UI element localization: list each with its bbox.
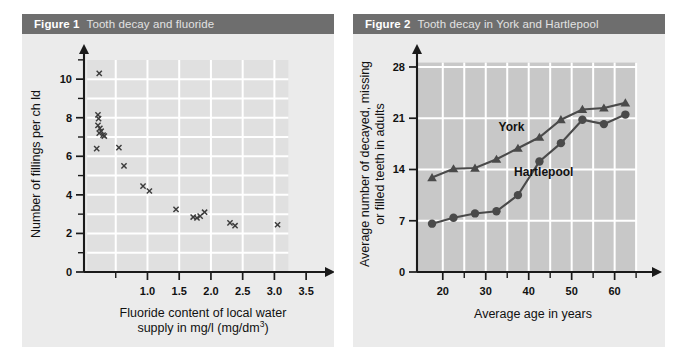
x-tick-label: 20	[437, 285, 449, 297]
y-axis-title: Number of fillings per ch ld	[29, 90, 43, 238]
data-point-marker	[578, 116, 586, 124]
y-axis-title-line1: Average number of decayed, missing	[358, 61, 372, 267]
y-tick-label: 6	[66, 150, 72, 162]
figure-2-panel: Figure 2 Tooth decay in York and Hartlep…	[353, 14, 665, 347]
data-point-marker	[449, 214, 457, 222]
data-point-marker	[492, 207, 500, 215]
page-background: Figure 1 Tooth decay and fluoride 024681…	[0, 0, 687, 361]
y-tick-label: 14	[393, 163, 406, 175]
figure-1-title: Tooth decay and fluoride	[87, 18, 215, 30]
data-point-marker	[557, 139, 565, 147]
x-tick-label: 3.5	[298, 285, 313, 297]
x-axis-arrow	[652, 267, 662, 277]
y-tick-label: 28	[393, 61, 405, 73]
x-tick-label: 2.5	[235, 285, 250, 297]
figure-2-plot: 071421282030405060Average number of deca…	[353, 34, 665, 347]
y-tick-label: 4	[66, 189, 73, 201]
x-tick-label: 3.0	[267, 285, 282, 297]
figure-2-number: Figure 2	[365, 18, 411, 30]
y-axis-title-line2: or filled teeth in adults	[373, 103, 387, 225]
x-axis-title: Average age in years	[474, 307, 592, 321]
series-label-hartlepool: Hartlepool	[514, 165, 573, 179]
figure-1-number: Figure 1	[34, 18, 80, 30]
x-tick-label: 50	[566, 285, 578, 297]
y-tick-label: 0	[66, 266, 72, 278]
figure-1-header: Figure 1 Tooth decay and fluoride	[22, 14, 334, 34]
data-point-marker	[428, 219, 436, 227]
y-tick-label: 7	[399, 215, 405, 227]
y-axis-arrow	[79, 44, 89, 54]
x-tick-label: 1.0	[140, 285, 155, 297]
figure-2-title: Tooth decay in York and Hartlepool	[418, 18, 599, 30]
y-tick-label: 10	[60, 73, 72, 85]
plot-background	[87, 60, 288, 272]
y-tick-label: 2	[66, 227, 72, 239]
data-point-marker	[471, 209, 479, 217]
figure-1-plot: 02468101.01.52.02.53.03.5Number of filli…	[22, 34, 334, 347]
figure-2-header: Figure 2 Tooth decay in York and Hartlep…	[353, 14, 665, 34]
line-chart-york-hartlepool: 071421282030405060Average number of deca…	[353, 34, 665, 347]
scatter-chart-fluoride: 02468101.01.52.02.53.03.5Number of filli…	[22, 34, 334, 347]
y-axis-arrow	[412, 44, 422, 54]
x-axis-title-line2: supply in mg/l (mg/dm3)	[137, 319, 268, 335]
x-tick-label: 40	[523, 285, 535, 297]
figure-1-panel: Figure 1 Tooth decay and fluoride 024681…	[22, 14, 334, 347]
y-tick-label: 8	[66, 112, 72, 124]
y-tick-label: 21	[393, 112, 405, 124]
x-axis-title-line1: Fluoride content of local water	[120, 306, 287, 320]
data-point-marker	[600, 120, 608, 128]
data-point-marker	[621, 110, 629, 118]
x-tick-label: 1.5	[172, 285, 187, 297]
data-point-marker	[514, 191, 522, 199]
y-tick-label: 0	[399, 266, 405, 278]
x-tick-label: 2.0	[203, 285, 218, 297]
series-label-york: York	[499, 120, 525, 134]
x-tick-label: 60	[609, 285, 621, 297]
x-tick-label: 30	[480, 285, 492, 297]
x-axis-arrow	[325, 267, 334, 277]
